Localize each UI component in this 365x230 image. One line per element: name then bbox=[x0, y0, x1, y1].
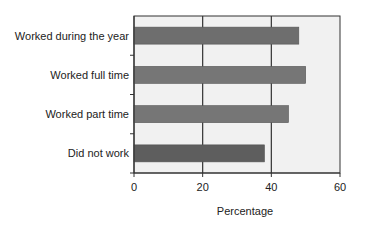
x-tick-label: 0 bbox=[131, 181, 137, 193]
x-tick-label: 60 bbox=[334, 181, 346, 193]
category-labels: Worked during the yearWorked full timeWo… bbox=[15, 30, 134, 173]
category-label: Worked full time bbox=[50, 69, 129, 81]
bar bbox=[134, 106, 289, 123]
x-tick-label: 40 bbox=[265, 181, 277, 193]
bar bbox=[134, 27, 299, 44]
bar bbox=[134, 145, 264, 162]
bar bbox=[134, 66, 306, 83]
category-label: Worked during the year bbox=[15, 30, 129, 42]
x-tick-label: 20 bbox=[197, 181, 209, 193]
x-axis-title: Percentage bbox=[217, 205, 273, 217]
category-label: Did not work bbox=[68, 147, 130, 159]
bar-chart: Worked during the yearWorked full timeWo… bbox=[0, 0, 365, 230]
x-axis-ticks: 0204060 bbox=[131, 173, 346, 193]
category-label: Worked part time bbox=[45, 108, 129, 120]
